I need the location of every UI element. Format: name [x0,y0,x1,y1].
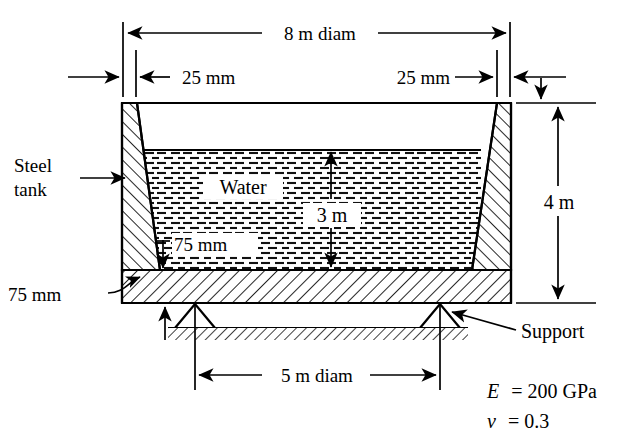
label-steel-tank-line2: tank [14,179,47,200]
label-water: Water [219,176,267,198]
poissons-ratio-symbol: ν [487,410,496,432]
youngs-modulus-value: = 200 GPa [511,380,597,402]
tank-floor [122,270,511,303]
label-support-diameter: 5 m diam [281,365,353,386]
label-support: Support [521,320,585,343]
label-tank-height: 4 m [544,191,575,213]
ground-hatch [168,328,468,340]
label-water-depth: 3 m [317,204,348,226]
label-floor-thickness-inner: 75 mm [174,234,228,255]
label-steel-tank-line1: Steel [14,155,52,176]
youngs-modulus-symbol: E [486,380,499,402]
label-floor-thickness-outer: 75 mm [8,284,62,305]
label-poissons-ratio: ν = 0.3 [487,410,549,432]
figure-canvas: 8 m diam 25 mm 25 mm Steel tank Water 3 … [0,0,633,446]
poissons-ratio-value: = 0.3 [508,410,549,432]
label-water-group: Water [203,175,283,199]
label-youngs-modulus: E = 200 GPa [486,380,597,402]
label-wall-thickness-right: 25 mm [397,67,451,88]
label-wall-thickness-left: 25 mm [182,67,236,88]
tank-cross-section-svg: 8 m diam 25 mm 25 mm Steel tank Water 3 … [0,0,633,446]
label-top-diameter: 8 m diam [284,23,356,44]
